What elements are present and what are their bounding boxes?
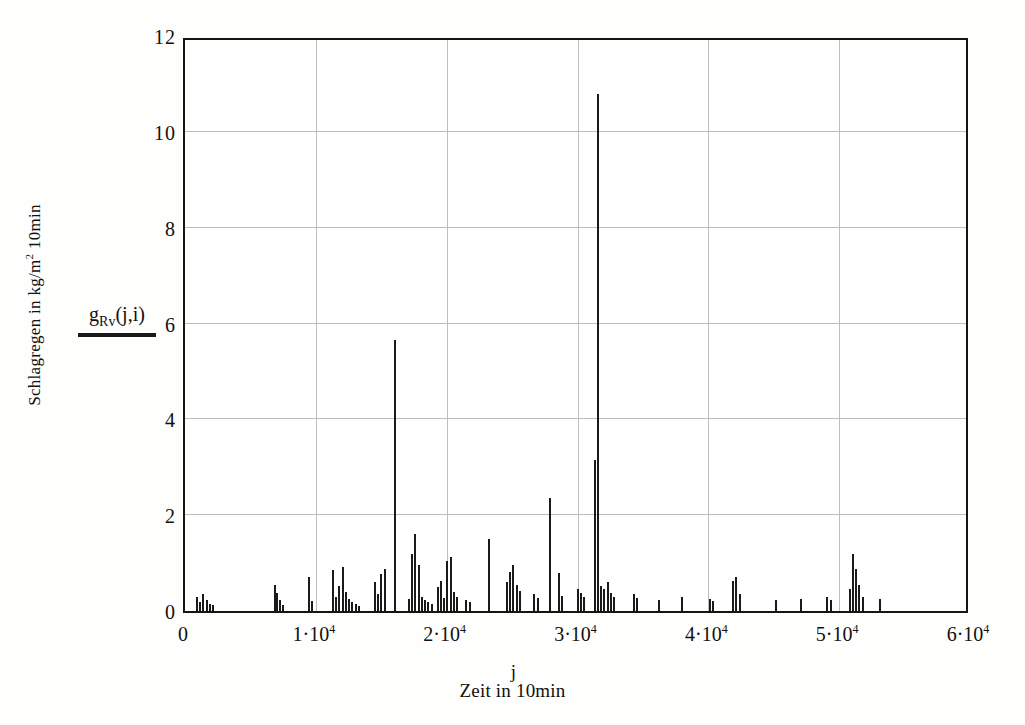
x-tick-exponent: 4 xyxy=(591,622,597,636)
bar xyxy=(597,94,599,612)
bar xyxy=(424,600,426,611)
bar xyxy=(826,597,828,611)
x-axis-tick-labels: 01·1042·1043·1044·1045·1046·104 xyxy=(183,624,968,658)
x-tick-major xyxy=(185,611,187,613)
chart-figure: 024681012 gRv(j,i) Schlagregen in kg/m2 … xyxy=(0,0,1025,725)
bar xyxy=(418,565,420,611)
y-tick-label: 2 xyxy=(132,506,176,526)
bar xyxy=(440,581,442,611)
bar xyxy=(561,596,563,611)
bar xyxy=(855,569,857,611)
bar xyxy=(488,539,490,611)
bar xyxy=(446,561,448,611)
bar xyxy=(800,599,802,611)
bar xyxy=(830,600,832,611)
x-tick-exponent: 4 xyxy=(460,622,466,636)
bar xyxy=(509,572,511,611)
x-tick-label: 0 xyxy=(178,624,188,644)
bar xyxy=(580,593,582,611)
bar xyxy=(308,577,310,612)
bar xyxy=(549,498,551,611)
y-axis-title: Schlagregen in kg/m2 10min xyxy=(25,55,45,555)
x-tick-exponent: 4 xyxy=(722,622,728,636)
x-tick-exponent: 4 xyxy=(983,622,989,636)
bar xyxy=(377,594,379,611)
bar xyxy=(209,604,211,611)
bar xyxy=(421,597,423,611)
bar xyxy=(450,557,452,611)
bar xyxy=(862,597,864,611)
bar xyxy=(712,601,714,611)
x-tick-major xyxy=(447,611,449,613)
bar xyxy=(879,599,881,611)
bar xyxy=(199,602,201,611)
bar xyxy=(537,598,539,611)
bar xyxy=(607,582,609,611)
y-tick-label: 0 xyxy=(132,602,176,622)
y-tick-label: 10 xyxy=(132,123,176,143)
bar xyxy=(519,591,521,611)
x-tick-major xyxy=(578,611,580,613)
bar xyxy=(512,565,514,611)
bar xyxy=(506,582,508,611)
x-tick-label: 5·104 xyxy=(816,624,859,644)
bar xyxy=(533,594,535,611)
legend-label: gRv(j,i) xyxy=(62,303,172,325)
x-tick-label: 1·104 xyxy=(292,624,335,644)
bar xyxy=(282,605,284,611)
bar xyxy=(658,600,660,611)
bar xyxy=(600,586,602,611)
bar xyxy=(332,570,334,611)
bar xyxy=(594,460,596,611)
bar xyxy=(516,585,518,611)
bar xyxy=(394,340,396,611)
bar xyxy=(453,592,455,611)
bar xyxy=(351,602,353,611)
y-tick-label: 8 xyxy=(132,219,176,239)
bar xyxy=(469,602,471,611)
bar xyxy=(380,574,382,611)
x-tick-label: 4·104 xyxy=(685,624,728,644)
x-tick-major xyxy=(708,611,710,613)
bar xyxy=(732,581,734,611)
bar xyxy=(212,605,214,611)
x-tick-label: 3·104 xyxy=(554,624,597,644)
bar xyxy=(345,592,347,611)
bar xyxy=(437,587,439,611)
bar xyxy=(465,600,467,611)
bar xyxy=(577,589,579,611)
x-tick-label: 2·104 xyxy=(423,624,466,644)
bar xyxy=(414,534,416,611)
x-axis-symbol: j xyxy=(2,662,1025,681)
x-axis-title-text: Zeit in 10min xyxy=(0,681,1025,701)
bar xyxy=(311,601,313,611)
legend-line-swatch xyxy=(78,333,156,337)
bar xyxy=(206,600,208,611)
bar xyxy=(342,567,344,611)
bar xyxy=(338,586,340,611)
x-tick-major xyxy=(316,611,318,613)
legend: gRv(j,i) xyxy=(62,303,172,337)
bar xyxy=(739,594,741,611)
bar xyxy=(610,593,612,611)
bar xyxy=(709,599,711,611)
legend-subscript: Rv xyxy=(99,314,115,329)
x-tick-major xyxy=(839,611,841,613)
bar xyxy=(431,604,433,611)
bar-series xyxy=(185,40,966,611)
bar xyxy=(355,604,357,611)
x-tick-label: 6·104 xyxy=(947,624,990,644)
bar xyxy=(335,597,337,611)
bar xyxy=(558,573,560,611)
bar xyxy=(636,598,638,611)
bar xyxy=(849,589,851,611)
x-tick-exponent: 4 xyxy=(329,622,335,636)
bar xyxy=(443,598,445,611)
bar xyxy=(613,597,615,611)
bar xyxy=(852,554,854,611)
bar xyxy=(348,599,350,611)
bar xyxy=(411,554,413,611)
bar xyxy=(427,602,429,611)
bar xyxy=(858,585,860,611)
bar xyxy=(202,594,204,611)
